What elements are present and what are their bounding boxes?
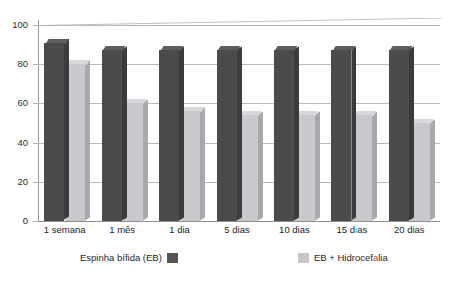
- x-tick-label: 1 semana: [44, 224, 86, 236]
- x-tick-label: 15 dias: [337, 224, 368, 236]
- cyan-edge-artifact: [351, 50, 353, 221]
- y-tick-label: 60: [17, 99, 28, 109]
- bar-group: [331, 25, 372, 221]
- chart-legend: Espinha bífida (EB) EB + Hidrocefalia: [0, 248, 453, 272]
- plot-area: 020406080100 1 semana1 mês1 dia5 dias10 …: [0, 0, 453, 232]
- y-tick-mark: [33, 221, 38, 222]
- bar-group: [389, 25, 430, 221]
- x-axis-tick-labels: 1 semana1 mês1 dia5 dias10 dias15 dias20…: [38, 224, 440, 240]
- y-tick-label: 0: [23, 216, 28, 226]
- bar-espinha-bifida: [44, 43, 64, 221]
- legend-swatch-light: [298, 253, 309, 263]
- legend-label-eb-hidrocefalia: EB + Hidrocefalia: [314, 252, 388, 264]
- legend-label-espinha-bifida: Espinha bífida (EB): [80, 252, 162, 264]
- bar-espinha-bifida: [331, 50, 351, 221]
- bar-espinha-bifida: [159, 50, 179, 221]
- legend-item-espinha-bifida: Espinha bífida (EB): [80, 252, 178, 264]
- y-tick-label: 100: [12, 20, 28, 30]
- faded-character: a: [373, 252, 378, 263]
- x-tick-label: 1 mês: [109, 224, 135, 236]
- bar-group: [159, 25, 200, 221]
- bar-chart-figure: 020406080100 1 semana1 mês1 dia5 dias10 …: [0, 0, 453, 285]
- y-tick-label: 40: [17, 138, 28, 148]
- x-tick-label: 5 dias: [224, 224, 249, 236]
- bar-group: [44, 25, 85, 221]
- bar-espinha-bifida: [274, 50, 294, 221]
- bars-layer: [38, 25, 440, 221]
- x-tick-label: 20 dias: [394, 224, 425, 236]
- legend-swatch-dark: [167, 253, 178, 263]
- bar-espinha-bifida: [102, 50, 122, 221]
- x-tick-label: 10 dias: [279, 224, 310, 236]
- legend-item-eb-hidrocefalia: EB + Hidrocefalia: [298, 252, 388, 264]
- bar-group: [274, 25, 315, 221]
- bar-espinha-bifida: [389, 50, 409, 221]
- bar-group: [217, 25, 258, 221]
- x-tick-label: 1 dia: [169, 224, 190, 236]
- y-axis-tick-labels: 020406080100: [0, 0, 34, 232]
- y-tick-label: 80: [17, 59, 28, 69]
- axis-baseline: [38, 221, 440, 222]
- y-tick-label: 20: [17, 177, 28, 187]
- bar-group: [102, 25, 143, 221]
- bar-espinha-bifida: [217, 50, 237, 221]
- faded-character: i: [355, 224, 357, 235]
